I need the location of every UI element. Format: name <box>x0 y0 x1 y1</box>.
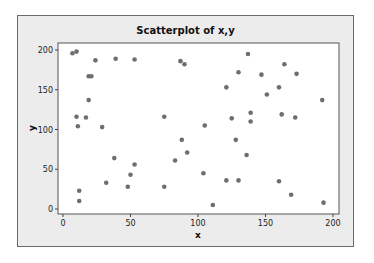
data-point <box>132 57 137 62</box>
y-tick-label: 50 <box>43 165 53 174</box>
data-point <box>93 58 98 63</box>
data-point <box>224 178 229 183</box>
data-point <box>89 74 94 79</box>
x-tick-label: 0 <box>60 219 65 228</box>
y-axis-ticks: 050100150200 <box>38 46 58 214</box>
data-point <box>104 180 109 185</box>
y-tick-label: 0 <box>48 205 53 214</box>
x-tick-label: 150 <box>258 219 273 228</box>
data-point <box>236 178 241 183</box>
x-axis-ticks: 050100150200 <box>60 214 340 228</box>
y-tick-label: 100 <box>38 126 53 135</box>
data-point <box>277 179 282 184</box>
data-point <box>234 138 239 143</box>
data-point <box>178 59 183 64</box>
data-point <box>185 150 190 155</box>
data-point <box>180 138 185 143</box>
data-point <box>74 114 79 119</box>
data-point <box>277 85 282 90</box>
data-point <box>279 112 284 117</box>
data-point <box>70 51 75 56</box>
data-point <box>126 184 131 189</box>
data-point <box>293 115 298 120</box>
data-point <box>74 49 79 54</box>
data-point <box>162 114 167 119</box>
data-point <box>248 119 253 124</box>
y-tick-label: 200 <box>38 46 53 55</box>
data-point <box>202 123 207 128</box>
data-point <box>112 156 117 161</box>
data-point <box>86 98 91 103</box>
x-axis-label: x <box>195 230 201 240</box>
data-point <box>244 153 249 158</box>
data-point <box>248 111 253 116</box>
data-point <box>265 92 270 97</box>
data-point <box>76 124 81 129</box>
data-point <box>282 62 287 67</box>
x-tick-label: 100 <box>190 219 205 228</box>
data-point <box>113 56 118 61</box>
x-tick-label: 50 <box>125 219 135 228</box>
data-point <box>132 162 137 167</box>
scatter-plot: 050100150200 050100150200 x y <box>0 0 374 263</box>
data-point <box>128 173 133 178</box>
data-point <box>259 72 264 77</box>
y-tick-label: 150 <box>38 86 53 95</box>
data-point <box>162 184 167 189</box>
data-point <box>100 125 105 130</box>
plot-area <box>58 43 339 214</box>
data-point <box>173 158 178 163</box>
data-point <box>77 188 82 193</box>
data-point <box>224 85 229 90</box>
y-axis-label: y <box>27 125 37 131</box>
data-point <box>246 52 251 57</box>
data-point <box>77 199 82 204</box>
data-point <box>201 171 206 176</box>
x-tick-label: 200 <box>325 219 340 228</box>
data-point <box>236 70 241 75</box>
data-point <box>321 200 326 205</box>
data-point <box>211 203 216 208</box>
data-point <box>289 192 294 197</box>
data-point <box>229 116 234 121</box>
data-point <box>320 98 325 103</box>
data-point <box>182 62 187 67</box>
data-point <box>84 115 89 120</box>
data-point <box>294 72 299 77</box>
